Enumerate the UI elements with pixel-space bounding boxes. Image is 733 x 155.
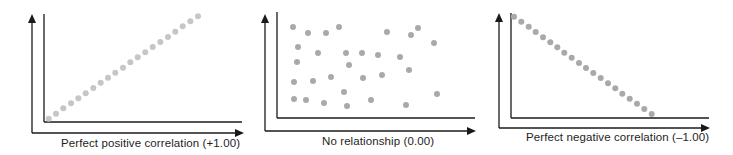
data-point — [157, 39, 163, 45]
data-point — [641, 106, 647, 112]
caption-no-relationship: No relationship (0.00) — [322, 135, 434, 147]
data-point — [431, 40, 437, 46]
data-point — [368, 97, 374, 103]
data-point — [343, 50, 349, 56]
data-point — [90, 85, 96, 91]
data-point — [165, 34, 171, 40]
data-point — [321, 100, 327, 106]
panel-positive-correlation — [28, 13, 244, 137]
data-point — [533, 29, 539, 35]
data-point — [135, 54, 141, 60]
data-point — [561, 50, 567, 56]
data-point — [649, 111, 655, 117]
data-point — [360, 75, 366, 81]
data-point — [336, 24, 342, 30]
panel-no-relationship — [261, 12, 476, 135]
data-point — [112, 70, 118, 76]
arrow-right-icon — [235, 129, 244, 137]
data-point — [195, 13, 201, 19]
data-point — [105, 75, 111, 81]
data-point — [75, 95, 81, 101]
data-point — [619, 91, 625, 97]
data-point — [627, 96, 633, 102]
data-point — [359, 50, 365, 56]
data-point — [605, 80, 611, 86]
data-point — [344, 103, 350, 109]
data-point — [408, 32, 414, 38]
data-point — [295, 44, 301, 50]
data-point — [120, 65, 126, 71]
data-point — [547, 39, 553, 45]
data-point — [60, 105, 66, 111]
data-point — [346, 62, 352, 68]
data-point — [291, 79, 297, 85]
arrow-up-icon — [261, 14, 269, 23]
data-point — [379, 72, 385, 78]
data-point — [526, 24, 532, 30]
data-point — [554, 44, 560, 50]
data-point — [397, 54, 403, 60]
data-point — [172, 29, 178, 35]
data-point — [291, 96, 297, 102]
data-point — [68, 100, 74, 106]
arrow-up-icon — [495, 13, 503, 22]
data-point — [576, 60, 582, 66]
data-point — [384, 29, 390, 35]
data-point — [127, 59, 133, 65]
data-point — [612, 85, 618, 91]
data-point — [518, 19, 524, 25]
data-point — [406, 67, 412, 73]
arrow-right-icon — [467, 127, 476, 135]
data-point — [310, 78, 316, 84]
data-point — [315, 50, 321, 56]
data-point — [341, 89, 347, 95]
data-point — [294, 59, 300, 65]
data-point — [180, 23, 186, 29]
panel-negative-correlation — [495, 13, 710, 132]
data-point — [511, 14, 517, 20]
data-point — [142, 49, 148, 55]
caption-negative-correlation: Perfect negative correlation (–1.00) — [526, 131, 709, 143]
data-point — [187, 18, 193, 24]
data-point — [634, 101, 640, 107]
data-point — [415, 25, 421, 31]
data-point — [53, 111, 59, 117]
data-point — [540, 34, 546, 40]
data-point — [150, 44, 156, 50]
data-point — [83, 90, 89, 96]
data-point — [403, 102, 409, 108]
data-point — [98, 80, 104, 86]
data-point — [583, 65, 589, 71]
caption-positive-correlation: Perfect positive correlation (+1.00) — [61, 137, 240, 149]
data-point — [46, 116, 52, 122]
data-point — [569, 55, 575, 61]
data-point — [598, 75, 604, 81]
data-point — [323, 30, 329, 36]
data-point — [590, 70, 596, 76]
data-point — [305, 30, 311, 36]
data-point — [434, 91, 440, 97]
data-point — [303, 97, 309, 103]
data-point — [328, 74, 334, 80]
data-point — [290, 24, 296, 30]
arrow-up-icon — [28, 14, 36, 23]
data-point — [375, 52, 381, 58]
